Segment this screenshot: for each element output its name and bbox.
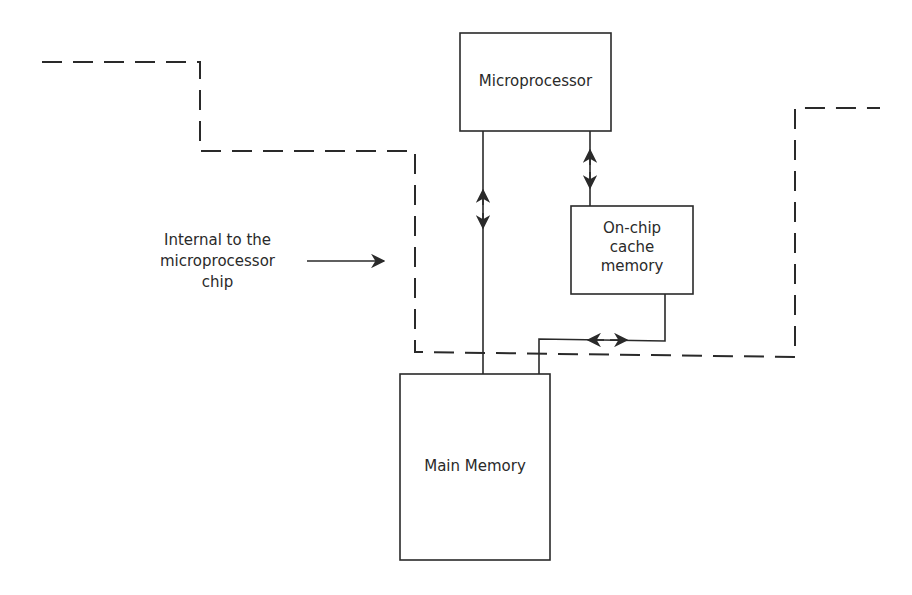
cache-label-line-3: memory bbox=[571, 257, 693, 276]
cache-label-line-1: On-chip bbox=[571, 219, 693, 238]
cache-memory-bus-line bbox=[539, 294, 665, 374]
microprocessor-label: Microprocessor bbox=[460, 72, 611, 91]
diagram-canvas bbox=[0, 0, 912, 595]
annotation-line-3: chip bbox=[140, 272, 295, 293]
chip-boundary-annotation: Internal to the microprocessor chip bbox=[140, 230, 295, 293]
cache-label: On-chip cache memory bbox=[571, 219, 693, 276]
cache-label-line-2: cache bbox=[571, 238, 693, 257]
main-memory-label: Main Memory bbox=[400, 457, 550, 476]
annotation-line-2: microprocessor bbox=[140, 251, 295, 272]
annotation-line-1: Internal to the bbox=[140, 230, 295, 251]
